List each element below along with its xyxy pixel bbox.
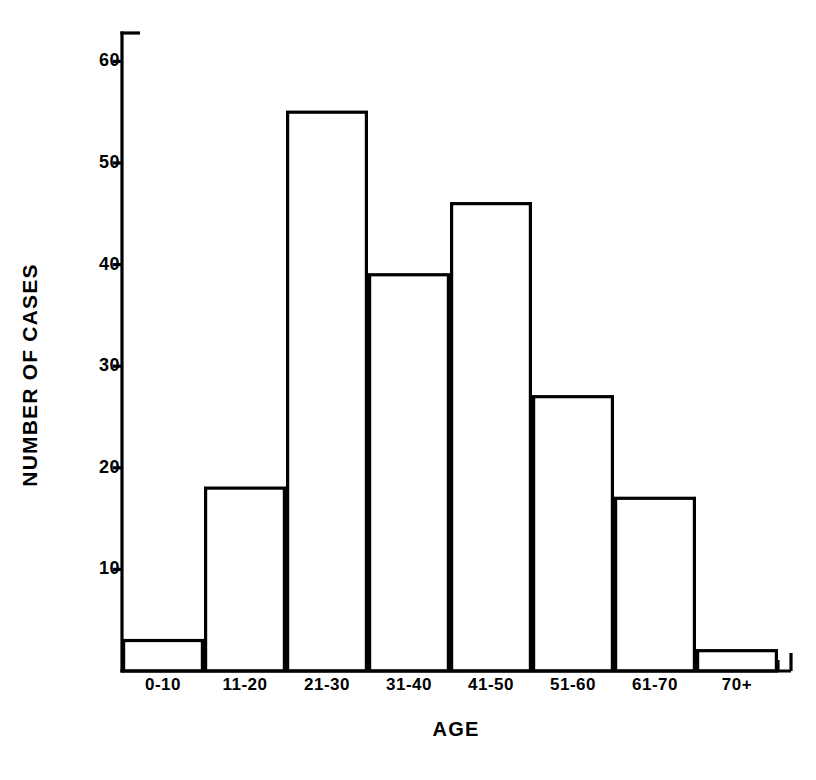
bar-41-50	[452, 204, 531, 671]
x-tick-label-11-20: 11-20	[204, 676, 286, 693]
bar-11-20	[206, 488, 285, 671]
x-tick-label-21-30: 21-30	[286, 676, 368, 693]
bar-0-10	[124, 641, 203, 671]
y-tick-label-wrap-10: 10	[62, 559, 120, 577]
bar-21-30	[288, 112, 367, 671]
x-axis-title: AGE	[122, 718, 790, 741]
x-tick-label-70plus: 70+	[696, 676, 778, 693]
y-tick-label-wrap-30: 30	[62, 356, 120, 374]
y-tick-label-20: 20	[74, 458, 120, 476]
y-tick-label-40: 40	[74, 255, 120, 273]
histogram-figure: NUMBER OF CASES 102030405060 0-1011-2021…	[0, 0, 816, 780]
y-tick-label-wrap-20: 20	[62, 458, 120, 476]
chart-canvas	[0, 0, 816, 780]
x-tick-label-41-50: 41-50	[450, 676, 532, 693]
plot-area: 102030405060 0-1011-2021-3031-4041-5051-…	[0, 0, 816, 780]
bar-61-70	[616, 498, 695, 671]
y-tick-label-10: 10	[74, 559, 120, 577]
y-tick-label-60: 60	[74, 51, 120, 69]
bar-31-40	[370, 275, 449, 671]
bar-51-60	[534, 397, 613, 671]
x-tick-label-31-40: 31-40	[368, 676, 450, 693]
x-tick-label-0-10: 0-10	[122, 676, 204, 693]
y-tick-label-wrap-50: 50	[62, 153, 120, 171]
bar-70plus	[698, 651, 777, 671]
y-tick-label-30: 30	[74, 356, 120, 374]
y-tick-label-wrap-40: 40	[62, 255, 120, 273]
x-tick-label-61-70: 61-70	[614, 676, 696, 693]
x-tick-label-51-60: 51-60	[532, 676, 614, 693]
y-tick-label-wrap-60: 60	[62, 51, 120, 69]
y-tick-label-50: 50	[74, 153, 120, 171]
bars-group	[124, 112, 777, 671]
